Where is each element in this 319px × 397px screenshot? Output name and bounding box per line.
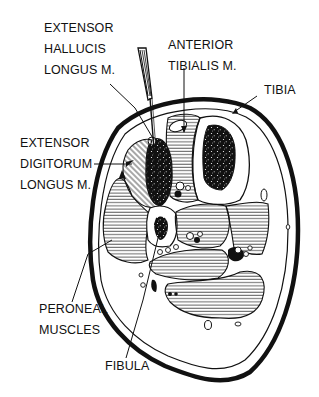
diagram-canvas: EXTENSOR HALLUCIS LONGUS M. ANTERIOR TIB…	[0, 0, 319, 397]
label-anterior-tibialis: ANTERIOR TIBIALIS M.	[168, 35, 236, 77]
label-extensor-hallucis-longus: EXTENSOR HALLUCIS LONGUS M.	[44, 18, 115, 81]
flexor-digitorum-muscle	[226, 202, 269, 254]
tibialis-posterior-muscle	[175, 204, 229, 248]
label-peroneal-muscles: PERONEAL MUSCLES	[39, 299, 108, 341]
label-fibula: FIBULA	[105, 356, 149, 377]
label-extensor-digitorum-longus: EXTENSOR DIGITORUM LONGUS M.	[20, 133, 92, 196]
label-tibia: TIBIA	[264, 80, 296, 101]
tibia-marrow	[203, 125, 235, 190]
